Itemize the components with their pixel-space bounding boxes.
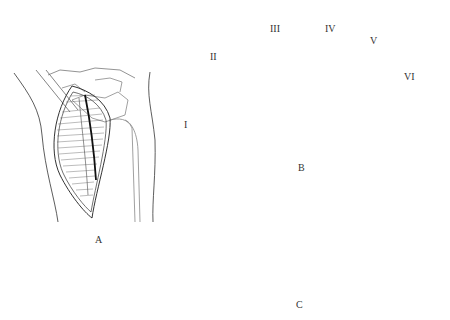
compartment-label-i: I	[184, 120, 187, 130]
panel-label-a: A	[95, 235, 102, 245]
compartment-label-vi: VI	[404, 72, 415, 82]
compartment-label-v: V	[370, 36, 377, 46]
compartment-label-ii: II	[210, 52, 217, 62]
panel-a-illustration	[14, 68, 155, 222]
panel-label-c: C	[296, 300, 303, 310]
panel-label-b: B	[298, 163, 305, 173]
compartment-label-iv: IV	[325, 24, 336, 34]
diagram-canvas	[0, 0, 450, 320]
compartment-label-iii: III	[270, 24, 280, 34]
